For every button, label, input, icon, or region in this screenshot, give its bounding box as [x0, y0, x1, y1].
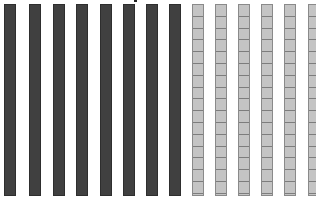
- light-ten-rod: [192, 4, 204, 196]
- dark-ten-rod: [4, 4, 16, 196]
- light-ten-rod: [238, 4, 250, 196]
- dark-ten-rod: [123, 4, 135, 196]
- dark-ten-rod: [169, 4, 181, 196]
- light-ten-rod: [215, 4, 227, 196]
- ten-rods-diagram: [0, 0, 316, 200]
- light-ten-rod: [261, 4, 273, 196]
- dark-ten-rod: [100, 4, 112, 196]
- dark-ten-rod: [29, 4, 41, 196]
- stray-mark: [134, 0, 137, 2]
- dark-ten-rod: [53, 4, 65, 196]
- light-ten-rod: [308, 4, 316, 196]
- dark-ten-rod: [146, 4, 158, 196]
- light-ten-rod: [284, 4, 296, 196]
- dark-ten-rod: [76, 4, 88, 196]
